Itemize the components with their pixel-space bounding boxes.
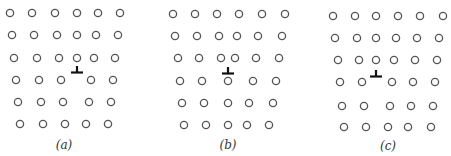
atom-icon bbox=[351, 12, 358, 19]
edge-dislocation-icon bbox=[222, 67, 234, 74]
atom-icon bbox=[198, 77, 205, 84]
panel-label-c: (c) bbox=[380, 139, 396, 153]
atom-icon bbox=[224, 99, 231, 106]
atom-icon bbox=[10, 54, 17, 61]
atom-icon bbox=[275, 54, 282, 61]
atom-icon bbox=[111, 54, 118, 61]
atom-icon bbox=[178, 99, 185, 106]
atom-icon bbox=[281, 10, 288, 17]
atom-icon bbox=[90, 54, 97, 61]
atom-icon bbox=[340, 123, 347, 130]
atom-icon bbox=[39, 120, 46, 127]
atom-icon bbox=[355, 56, 362, 63]
atom-icon bbox=[329, 12, 336, 19]
atom-icon bbox=[28, 9, 35, 16]
atom-icon bbox=[390, 56, 397, 63]
atom-icon bbox=[362, 123, 369, 130]
atom-icon bbox=[245, 99, 252, 106]
atom-icon bbox=[180, 121, 187, 128]
atom-icon bbox=[411, 56, 418, 63]
atom-icon bbox=[217, 54, 224, 61]
atom-icon bbox=[116, 9, 123, 16]
atom-icon bbox=[82, 120, 89, 127]
lattice-diagram bbox=[0, 0, 451, 156]
atom-icon bbox=[235, 10, 242, 17]
atom-icon bbox=[57, 76, 64, 83]
atom-icon bbox=[92, 31, 99, 38]
atom-icon bbox=[59, 98, 66, 105]
atom-icon bbox=[193, 32, 200, 39]
atom-icon bbox=[334, 56, 341, 63]
atom-icon bbox=[254, 32, 261, 39]
atom-icon bbox=[200, 99, 207, 106]
edge-dislocation-icon bbox=[370, 70, 382, 77]
atom-icon bbox=[191, 10, 198, 17]
atom-icon bbox=[331, 34, 338, 41]
atom-icon bbox=[109, 76, 116, 83]
atom-icon bbox=[94, 9, 101, 16]
atom-icon bbox=[61, 120, 68, 127]
atom-icon bbox=[169, 10, 176, 17]
atom-icon bbox=[394, 12, 401, 19]
atom-icon bbox=[8, 31, 15, 38]
atom-icon bbox=[231, 54, 238, 61]
panel-label-a: (a) bbox=[56, 138, 73, 152]
atom-icon bbox=[409, 78, 416, 85]
atom-icon bbox=[278, 32, 285, 39]
atom-icon bbox=[372, 34, 379, 41]
atom-icon bbox=[176, 77, 183, 84]
atom-icon bbox=[233, 32, 240, 39]
atom-icon bbox=[269, 99, 276, 106]
atom-icon bbox=[85, 98, 92, 105]
atom-icon bbox=[213, 10, 220, 17]
atom-icon bbox=[388, 78, 395, 85]
atom-icon bbox=[252, 54, 259, 61]
atom-icon bbox=[171, 32, 178, 39]
atom-icon bbox=[249, 77, 256, 84]
atom-icon bbox=[14, 98, 21, 105]
atom-icon bbox=[413, 34, 420, 41]
atom-icon bbox=[73, 31, 80, 38]
atom-icon bbox=[215, 32, 222, 39]
atom-icon bbox=[16, 120, 23, 127]
edge-dislocation-icon bbox=[71, 66, 83, 73]
panel-a bbox=[6, 9, 123, 127]
atom-icon bbox=[51, 9, 58, 16]
atom-icon bbox=[336, 78, 343, 85]
atom-icon bbox=[407, 102, 414, 109]
atom-icon bbox=[404, 123, 411, 130]
panel-b bbox=[169, 10, 288, 128]
atom-icon bbox=[55, 54, 62, 61]
atom-icon bbox=[224, 77, 231, 84]
atom-icon bbox=[439, 12, 446, 19]
atom-icon bbox=[37, 98, 44, 105]
atom-icon bbox=[386, 102, 393, 109]
panel-c bbox=[329, 12, 446, 130]
atom-icon bbox=[338, 102, 345, 109]
atom-icon bbox=[353, 34, 360, 41]
atom-icon bbox=[35, 76, 42, 83]
atom-icon bbox=[104, 120, 111, 127]
atom-icon bbox=[435, 34, 442, 41]
atom-icon bbox=[372, 56, 379, 63]
atom-icon bbox=[73, 54, 80, 61]
atom-icon bbox=[30, 31, 37, 38]
atom-icon bbox=[272, 77, 279, 84]
atom-icon bbox=[73, 9, 80, 16]
atom-icon bbox=[431, 78, 438, 85]
atom-icon bbox=[360, 102, 367, 109]
atom-icon bbox=[265, 121, 272, 128]
atom-icon bbox=[372, 12, 379, 19]
atom-icon bbox=[243, 121, 250, 128]
atom-icon bbox=[195, 54, 202, 61]
atom-icon bbox=[87, 76, 94, 83]
atom-icon bbox=[6, 9, 13, 16]
atom-icon bbox=[384, 123, 391, 130]
atom-icon bbox=[114, 31, 121, 38]
atom-icon bbox=[12, 76, 19, 83]
atom-icon bbox=[174, 54, 181, 61]
atom-icon bbox=[33, 54, 40, 61]
atom-icon bbox=[416, 12, 423, 19]
atom-icon bbox=[258, 10, 265, 17]
atom-icon bbox=[107, 98, 114, 105]
